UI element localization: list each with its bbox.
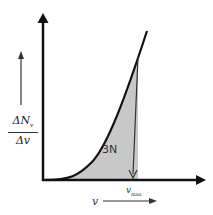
y-axis-arrowhead: [38, 13, 49, 23]
cutoff-label: vmax: [126, 185, 142, 197]
y-label-denominator: Δv: [8, 133, 38, 147]
diagram-canvas: [0, 0, 213, 215]
x-axis-arrowhead: [196, 175, 206, 185]
y-axis-label: ΔNv Δv: [8, 114, 38, 147]
x-direction-arrowhead: [149, 198, 157, 204]
y-direction-arrowhead: [18, 51, 24, 59]
area-label: 3N: [102, 143, 117, 156]
x-axis-label: v: [92, 195, 98, 208]
y-label-numerator: ΔNv: [8, 114, 38, 133]
